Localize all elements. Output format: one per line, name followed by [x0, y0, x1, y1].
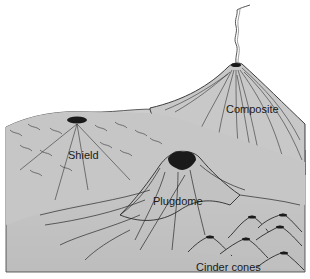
- label-shield: Shield: [68, 150, 99, 161]
- label-cinder-cones: Cinder cones: [196, 262, 261, 273]
- label-composite: Composite: [226, 104, 279, 115]
- volcano-drawing: [0, 0, 310, 279]
- label-plugdome: Plugdome: [153, 196, 203, 207]
- volcano-illustration: Composite Shield Plugdome Cinder cones: [0, 0, 310, 279]
